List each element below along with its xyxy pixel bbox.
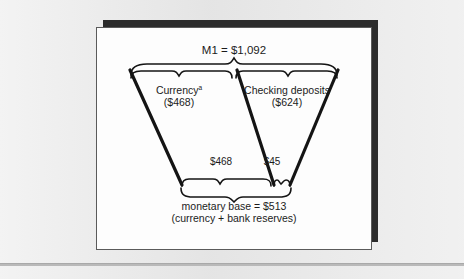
figure-root: M1 = $1,092 Currencya ($468) Checking de… (0, 0, 464, 279)
base-currency-brace (182, 179, 271, 186)
checking-brace (236, 71, 337, 78)
currency-amount: ($468) (164, 96, 194, 108)
currency-label-group: Currencya ($468) (133, 84, 225, 109)
monetary-base-label: monetary base = $513 (182, 200, 287, 212)
currency-footnote-marker: a (198, 84, 202, 91)
monetary-base-label-group: monetary base = $513 (currency + bank re… (124, 200, 344, 225)
checking-label: Checking deposits (244, 84, 330, 96)
base-reserves-brace (274, 180, 290, 186)
checking-label-group: Checking deposits ($624) (227, 84, 347, 109)
page-divider-rule (0, 263, 464, 266)
monetary-base-sublabel: (currency + bank reserves) (171, 212, 296, 224)
currency-brace (131, 71, 232, 78)
currency-label: Currency (156, 84, 199, 96)
m1-total-label: M1 = $1,092 (97, 44, 371, 58)
m1-brace (131, 58, 337, 75)
figure-card: M1 = $1,092 Currencya ($468) Checking de… (96, 27, 372, 250)
base-currency-value: $468 (199, 156, 243, 168)
checking-amount: ($624) (272, 96, 302, 108)
base-reserves-value: $45 (255, 156, 289, 168)
